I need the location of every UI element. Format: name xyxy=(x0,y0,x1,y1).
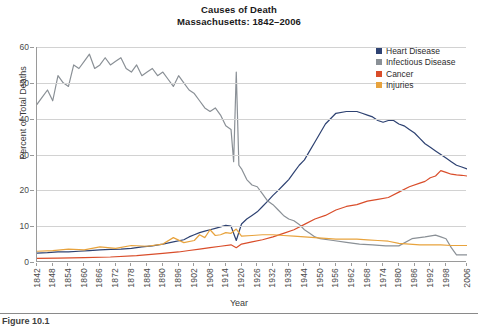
y-axis-tick-mark xyxy=(30,83,34,84)
x-axis-tick-label: 1968 xyxy=(362,268,372,288)
y-axis-tick-label: 0 xyxy=(24,257,29,267)
x-axis: 1842184818541860186618721878188418901896… xyxy=(36,263,466,297)
footer-divider xyxy=(0,313,478,314)
x-axis-tick-label: 1908 xyxy=(205,268,215,288)
x-axis-tick-mark xyxy=(83,263,84,266)
x-axis-tick-label: 1878 xyxy=(126,268,136,288)
legend-item-label: Injuries xyxy=(386,80,413,90)
chart-legend: Heart DiseaseInfectious DiseaseCancerInj… xyxy=(376,45,455,91)
chart-title-line1: Causes of Death xyxy=(0,4,478,16)
x-axis-tick-label: 1980 xyxy=(393,268,403,288)
x-axis-tick-mark xyxy=(99,263,100,266)
x-axis-tick-label: 1950 xyxy=(315,268,325,288)
gridline xyxy=(37,226,466,227)
y-axis-title: Percent of Total Deaths xyxy=(18,43,28,183)
x-axis-tick-label: 1860 xyxy=(79,268,89,288)
x-axis-tick-mark xyxy=(445,263,446,266)
x-axis-tick-mark xyxy=(225,263,226,266)
x-axis-tick-label: 1962 xyxy=(346,268,356,288)
x-axis-tick-label: 1974 xyxy=(378,268,388,288)
x-axis-tick-mark xyxy=(414,263,415,266)
x-axis-tick-label: 1944 xyxy=(299,268,309,288)
x-axis-tick-label: 1872 xyxy=(110,268,120,288)
y-axis-tick-mark xyxy=(30,262,34,263)
x-axis-tick-mark xyxy=(466,263,467,266)
x-axis-tick-label: 1902 xyxy=(189,268,199,288)
x-axis-tick-mark xyxy=(366,263,367,266)
x-axis-tick-mark xyxy=(130,263,131,266)
x-axis-tick-mark xyxy=(193,263,194,266)
x-axis-tick-label: 1956 xyxy=(330,268,340,288)
y-axis-tick-mark xyxy=(30,226,34,227)
legend-swatch-icon xyxy=(376,82,382,88)
y-axis-tick-mark xyxy=(30,155,34,156)
x-axis-tick-label: 1926 xyxy=(252,268,262,288)
x-axis-tick-label: 1866 xyxy=(94,268,104,288)
chart-title-line2: Massachusetts: 1842–2006 xyxy=(0,16,478,28)
y-axis-tick-mark xyxy=(30,47,34,48)
x-axis-tick-mark xyxy=(303,263,304,266)
x-axis-tick-mark xyxy=(288,263,289,266)
legend-item[interactable]: Cancer xyxy=(376,68,455,79)
x-axis-tick-label: 1986 xyxy=(409,268,419,288)
x-axis-tick-label: 1890 xyxy=(157,268,167,288)
y-axis-tick-mark xyxy=(30,190,34,191)
x-axis-tick-mark xyxy=(429,263,430,266)
gridline xyxy=(37,119,466,120)
x-axis-tick-label: 1998 xyxy=(441,268,451,288)
legend-swatch-icon xyxy=(376,48,382,54)
y-axis-tick-label: 20 xyxy=(20,185,29,195)
x-axis-tick-mark xyxy=(36,263,37,266)
x-axis-tick-mark xyxy=(335,263,336,266)
legend-item-label: Heart Disease xyxy=(386,46,440,56)
x-axis-tick-mark xyxy=(209,263,210,266)
legend-item-label: Cancer xyxy=(386,69,413,79)
x-axis-tick-mark xyxy=(241,263,242,266)
x-axis-title: Year xyxy=(0,298,478,308)
gridline xyxy=(37,190,466,191)
x-axis-tick-mark xyxy=(382,263,383,266)
x-axis-tick-mark xyxy=(146,263,147,266)
x-axis-tick-label: 1914 xyxy=(220,268,230,288)
x-axis-tick-mark xyxy=(272,263,273,266)
legend-swatch-icon xyxy=(376,59,382,65)
y-axis: 0102030405060 xyxy=(0,47,34,262)
x-axis-tick-label: 1854 xyxy=(63,268,73,288)
x-axis-tick-mark xyxy=(398,263,399,266)
legend-item[interactable]: Heart Disease xyxy=(376,45,455,56)
x-axis-tick-label: 2006 xyxy=(462,268,472,288)
legend-item[interactable]: Infectious Disease xyxy=(376,57,455,68)
legend-item-label: Infectious Disease xyxy=(386,57,455,67)
chart-title: Causes of Death Massachusetts: 1842–2006 xyxy=(0,4,478,27)
x-axis-tick-mark xyxy=(178,263,179,266)
x-axis-tick-label: 1992 xyxy=(425,268,435,288)
x-axis-tick-mark xyxy=(115,263,116,266)
x-axis-tick-mark xyxy=(67,263,68,266)
x-axis-tick-label: 1848 xyxy=(47,268,57,288)
legend-item[interactable]: Injuries xyxy=(376,80,455,91)
x-axis-tick-label: 1884 xyxy=(142,268,152,288)
x-axis-tick-label: 1842 xyxy=(32,268,42,288)
x-axis-tick-label: 1938 xyxy=(283,268,293,288)
x-axis-tick-label: 1920 xyxy=(236,268,246,288)
figure-caption: Figure 10.1 xyxy=(2,316,50,326)
x-axis-tick-mark xyxy=(256,263,257,266)
y-axis-tick-label: 10 xyxy=(20,221,29,231)
x-axis-tick-label: 1932 xyxy=(267,268,277,288)
figure-container: Causes of Death Massachusetts: 1842–2006… xyxy=(0,0,478,326)
x-axis-tick-mark xyxy=(52,263,53,266)
x-axis-tick-label: 1896 xyxy=(173,268,183,288)
x-axis-tick-mark xyxy=(162,263,163,266)
gridline xyxy=(37,155,466,156)
legend-swatch-icon xyxy=(376,71,382,77)
x-axis-tick-mark xyxy=(351,263,352,266)
x-axis-tick-mark xyxy=(319,263,320,266)
y-axis-tick-mark xyxy=(30,119,34,120)
